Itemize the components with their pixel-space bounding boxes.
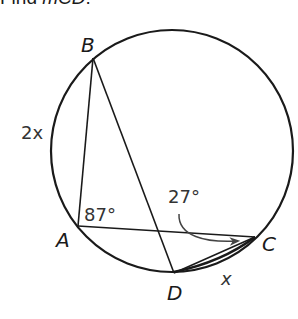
point-label-a: A (54, 228, 70, 252)
segment-ab (78, 58, 93, 226)
point-label-c: C (262, 232, 276, 256)
angle-a-label: 87° (84, 204, 116, 225)
point-label-b: B (81, 33, 95, 57)
segment-dc (174, 237, 255, 273)
angle-c-label: 27° (168, 186, 200, 207)
angle-c-arrow (179, 214, 238, 241)
segment-ac (78, 226, 255, 237)
point-label-d: D (167, 281, 182, 305)
circle-diagram: B A C D 2x x 87° 27° (0, 0, 298, 319)
circle (51, 30, 293, 272)
arc-ab-label: 2x (21, 122, 43, 143)
arc-cd-label: x (220, 268, 232, 289)
segment-bd (93, 58, 174, 273)
